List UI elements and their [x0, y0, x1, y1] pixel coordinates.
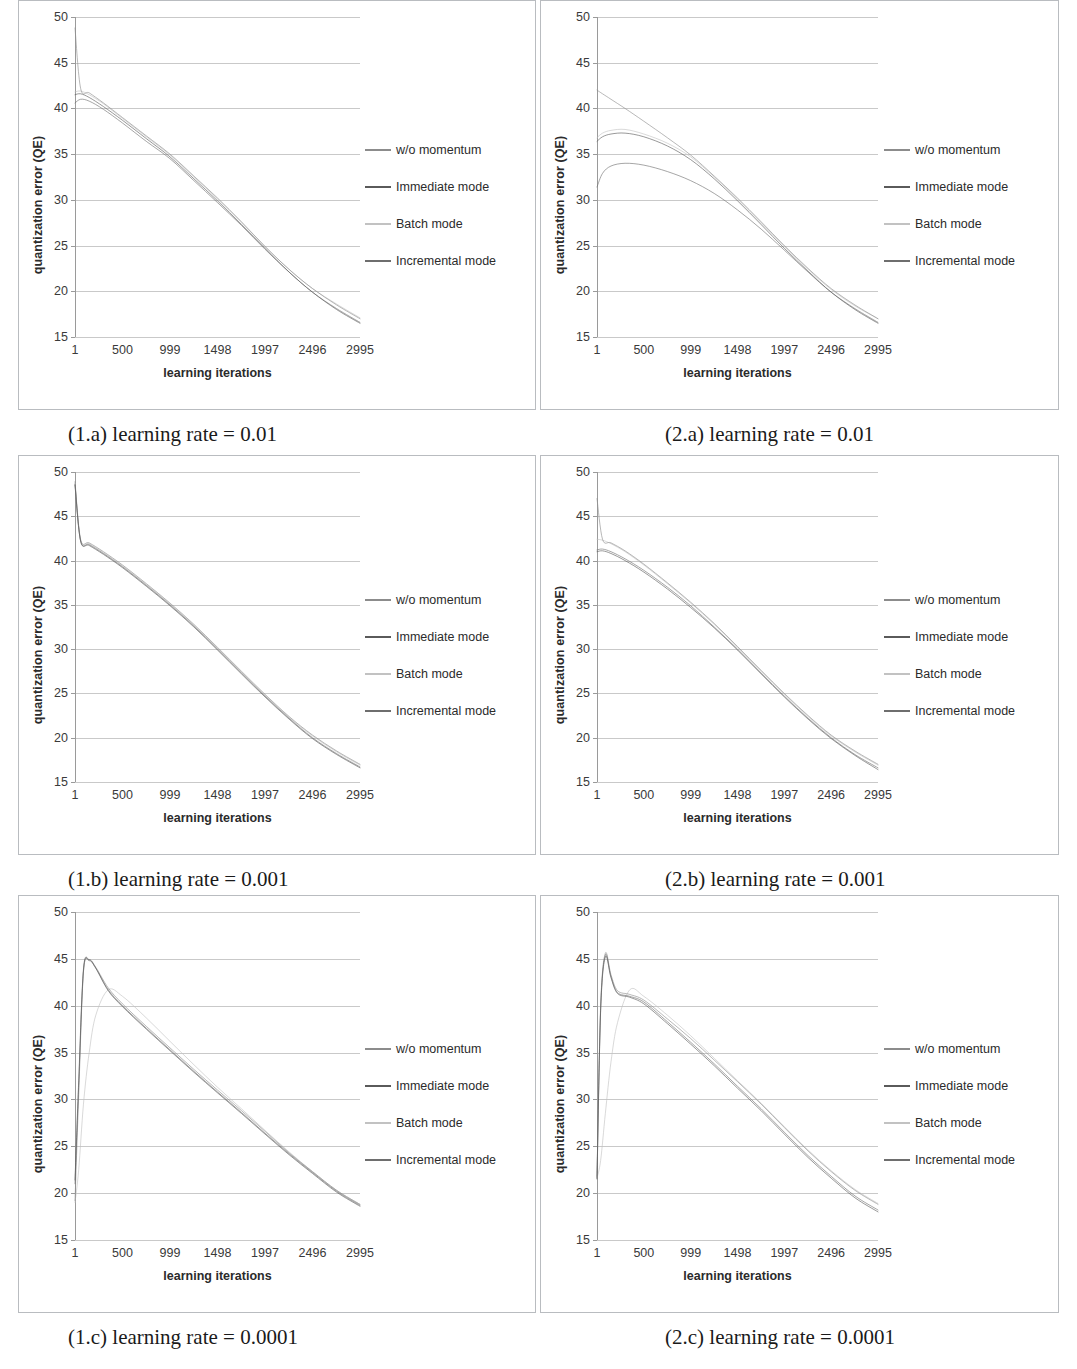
legend-line-swatch-icon	[365, 636, 391, 638]
x-tick-label: 1498	[724, 1246, 752, 1260]
chart-2b: quantization error (QE)50454035302520151…	[541, 456, 1058, 854]
legend-item[interactable]: w/o momentum	[884, 131, 1046, 168]
x-tick-label: 1997	[770, 788, 798, 802]
legend-line-swatch-icon	[365, 260, 391, 262]
legend-item[interactable]: w/o momentum	[365, 581, 523, 618]
legend-item[interactable]: w/o momentum	[365, 131, 523, 168]
series-lines	[597, 17, 878, 337]
caption-1a: (1.a) learning rate = 0.01	[68, 412, 277, 457]
legend-item[interactable]: w/o momentum	[884, 581, 1046, 618]
legend-item[interactable]: Immediate mode	[365, 168, 523, 205]
y-gridline	[597, 1240, 878, 1241]
chart-legend: w/o momentumImmediate modeBatch modeIncr…	[365, 1030, 523, 1178]
x-tick-label: 1498	[724, 343, 752, 357]
caption-row-a: (1.a) learning rate = 0.01 (2.a) learnin…	[0, 412, 1077, 457]
x-tick-label: 999	[680, 343, 701, 357]
x-tick-label: 500	[633, 1246, 654, 1260]
legend-item[interactable]: Immediate mode	[884, 618, 1046, 655]
legend-item[interactable]: Batch mode	[884, 1104, 1046, 1141]
chart-panel-1c: quantization error (QE)50454035302520151…	[18, 895, 536, 1313]
x-tick-label: 1	[72, 343, 79, 357]
legend-item[interactable]: w/o momentum	[365, 1030, 523, 1067]
x-tick-label: 999	[160, 1246, 181, 1260]
legend-item[interactable]: Immediate mode	[365, 1067, 523, 1104]
legend-item[interactable]: Batch mode	[365, 1104, 523, 1141]
chart-1a: quantization error (QE)50454035302520151…	[19, 1, 535, 409]
series-line	[597, 952, 878, 1204]
chart-2c: quantization error (QE)50454035302520151…	[541, 896, 1058, 1312]
y-gridline	[597, 337, 878, 338]
plot-area: 504540353025201515009991498199724962995l…	[75, 472, 360, 782]
series-line	[597, 988, 878, 1203]
legend-label: w/o momentum	[915, 1042, 1000, 1056]
y-tick-label: 30	[54, 193, 75, 207]
legend-line-swatch-icon	[884, 260, 910, 262]
y-tick-label: 45	[54, 509, 75, 523]
x-tick-label: 1	[594, 343, 601, 357]
y-tick-label: 30	[576, 1092, 597, 1106]
legend-line-swatch-icon	[365, 186, 391, 188]
x-axis-label: learning iterations	[75, 366, 360, 380]
x-tick-label: 1997	[251, 788, 279, 802]
y-tick-label: 40	[576, 101, 597, 115]
legend-line-swatch-icon	[884, 673, 910, 675]
legend-line-swatch-icon	[884, 1085, 910, 1087]
legend-item[interactable]: Batch mode	[365, 205, 523, 242]
legend-item[interactable]: Immediate mode	[884, 168, 1046, 205]
x-tick-label: 2995	[346, 1246, 374, 1260]
panel-group-c: quantization error (QE)50454035302520151…	[0, 895, 1077, 1313]
legend-item[interactable]: Incremental mode	[365, 242, 523, 279]
series-line	[75, 94, 360, 324]
legend-label: w/o momentum	[915, 593, 1000, 607]
x-tick-label: 2995	[864, 788, 892, 802]
legend-item[interactable]: Incremental mode	[365, 692, 523, 729]
y-tick-label: 30	[576, 642, 597, 656]
legend-item[interactable]: Incremental mode	[365, 1141, 523, 1178]
legend-item[interactable]: w/o momentum	[884, 1030, 1046, 1067]
legend-item[interactable]: Incremental mode	[884, 1141, 1046, 1178]
y-tick-label: 50	[576, 905, 597, 919]
legend-line-swatch-icon	[365, 223, 391, 225]
x-tick-label: 2995	[864, 343, 892, 357]
legend-line-swatch-icon	[884, 636, 910, 638]
series-line	[75, 958, 360, 1205]
y-tick-label: 25	[576, 686, 597, 700]
legend-label: Immediate mode	[396, 1079, 489, 1093]
chart-legend: w/o momentumImmediate modeBatch modeIncr…	[884, 131, 1046, 279]
y-gridline	[75, 782, 360, 783]
x-tick-label: 2995	[346, 343, 374, 357]
chart-panel-1a: quantization error (QE)50454035302520151…	[18, 0, 536, 410]
legend-label: Batch mode	[396, 667, 463, 681]
y-tick-label: 35	[576, 147, 597, 161]
y-tick-label: 40	[54, 554, 75, 568]
x-tick-label: 1	[72, 788, 79, 802]
y-gridline	[597, 782, 878, 783]
legend-label: Incremental mode	[915, 704, 1015, 718]
legend-item[interactable]: Immediate mode	[884, 1067, 1046, 1104]
x-axis-label: learning iterations	[597, 1269, 878, 1283]
legend-item[interactable]: Incremental mode	[884, 692, 1046, 729]
plot-area: 504540353025201515009991498199724962995l…	[75, 912, 360, 1240]
legend-item[interactable]: Batch mode	[884, 655, 1046, 692]
x-tick-label: 1	[594, 788, 601, 802]
y-tick-label: 30	[54, 1092, 75, 1106]
legend-item[interactable]: Incremental mode	[884, 242, 1046, 279]
series-lines	[75, 472, 360, 782]
chart-legend: w/o momentumImmediate modeBatch modeIncr…	[365, 131, 523, 279]
series-line	[597, 499, 878, 765]
legend-label: Batch mode	[396, 1116, 463, 1130]
y-tick-label: 35	[576, 598, 597, 612]
chart-legend: w/o momentumImmediate modeBatch modeIncr…	[884, 1030, 1046, 1178]
caption-1c: (1.c) learning rate = 0.0001	[68, 1315, 298, 1360]
legend-item[interactable]: Immediate mode	[365, 618, 523, 655]
legend-item[interactable]: Batch mode	[365, 655, 523, 692]
x-tick-label: 2496	[299, 788, 327, 802]
legend-item[interactable]: Batch mode	[884, 205, 1046, 242]
legend-line-swatch-icon	[365, 1048, 391, 1050]
y-axis-label: quantization error (QE)	[547, 456, 573, 854]
chart-panel-2c: quantization error (QE)50454035302520151…	[540, 895, 1059, 1313]
legend-label: Batch mode	[915, 217, 982, 231]
x-tick-label: 999	[680, 1246, 701, 1260]
y-tick-label: 45	[576, 952, 597, 966]
legend-line-swatch-icon	[884, 599, 910, 601]
